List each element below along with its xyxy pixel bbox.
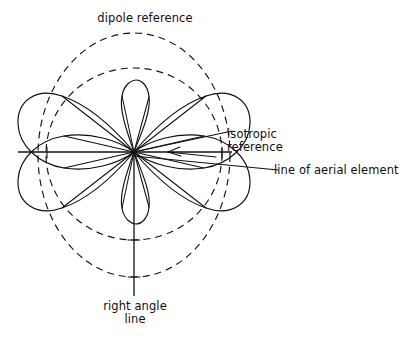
label-right-angle-line: right angleline [62,300,208,325]
minor-lobe-up [121,80,149,152]
label-dipole-reference: dipole reference [0,12,290,25]
major-lobe-lower-left [18,135,134,211]
minor-lobe-down [121,152,149,224]
isotropic-reference-leader [134,131,232,152]
figure-root: dipole reference isotropicreference line… [0,0,420,339]
label-line-of-aerial-element: line of aerial element [274,164,420,177]
axes-group [18,147,232,296]
major-lobe-upper-left [18,93,134,169]
label-right-angle-line-line2: line [124,312,145,326]
label-isotropic-reference-line2: reference [227,140,283,154]
label-isotropic-reference: isotropicreference [227,128,347,153]
